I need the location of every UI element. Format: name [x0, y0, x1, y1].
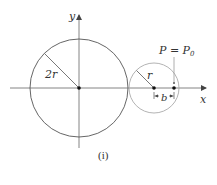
large-center-dot [77, 86, 81, 90]
point-label-subscript: 0 [190, 50, 195, 58]
point-p-dot [172, 86, 176, 90]
figure-caption: (i) [98, 149, 109, 162]
point-label: P = P0 [158, 44, 195, 58]
point-marker-dot [173, 82, 175, 84]
small-center-dot [152, 86, 156, 90]
x-axis-label: x [200, 93, 207, 106]
large-radius-label: 2r [44, 68, 58, 81]
small-radius-label: r [147, 69, 153, 82]
point-label-main: P = P [158, 44, 191, 57]
y-axis-label: y [68, 10, 76, 23]
diagram-canvas: y x 2r r b P = P0 (i) [0, 0, 217, 185]
b-label: b [161, 92, 167, 103]
